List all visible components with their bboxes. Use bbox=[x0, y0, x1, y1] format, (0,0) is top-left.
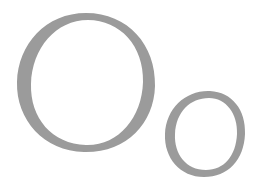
large-ring bbox=[17, 13, 155, 152]
small-ring bbox=[165, 91, 245, 177]
letter-rings-figure bbox=[0, 0, 256, 189]
